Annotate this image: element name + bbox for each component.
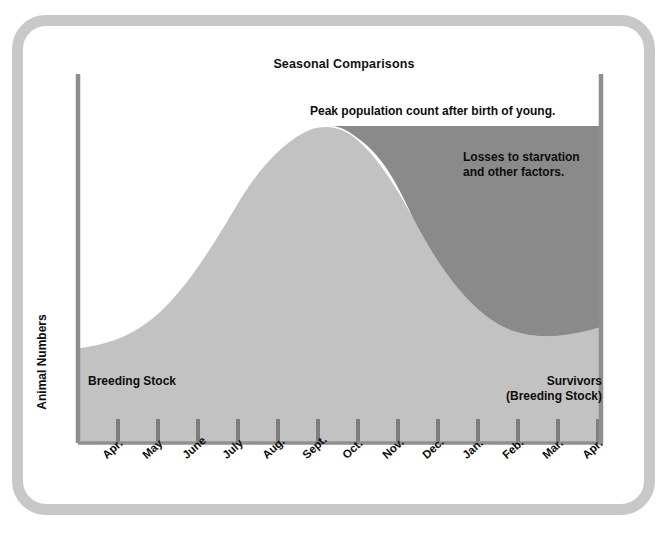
- annotation-losses: Losses to starvation and other factors.: [463, 150, 580, 181]
- chart-plot-area: [0, 0, 670, 536]
- annotation-breeding-stock: Breeding Stock: [88, 374, 176, 389]
- annotation-survivors: Survivors (Breeding Stock): [466, 374, 602, 405]
- chart-title: Seasonal Comparisons: [0, 57, 670, 71]
- annotation-peak-population: Peak population count after birth of you…: [310, 104, 555, 119]
- y-axis-label: Animal Numbers: [35, 302, 49, 422]
